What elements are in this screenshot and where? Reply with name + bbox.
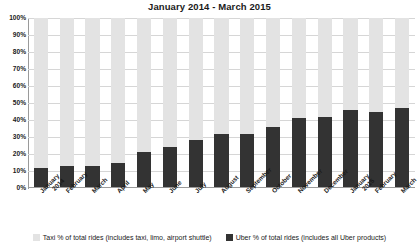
bar-group	[240, 18, 254, 188]
y-axis-tick-label: 0%	[0, 185, 26, 192]
legend-item[interactable]: Uber % of total rides (includes all Uber…	[226, 234, 387, 241]
chart-title: January 2014 - March 2015	[0, 1, 419, 12]
bar-group	[189, 18, 203, 188]
bar-group	[85, 18, 99, 188]
bar-group	[395, 18, 409, 188]
legend-swatch-uber-icon	[226, 234, 233, 241]
bar-segment-taxi	[34, 18, 48, 188]
bar-group	[111, 18, 125, 188]
y-axis-tick-label: 10%	[0, 168, 26, 175]
bar-segment-taxi	[85, 18, 99, 188]
chart-container: January 2014 - March 2015 100%90%80%70%6…	[0, 0, 419, 252]
y-axis-tick-label: 50%	[0, 100, 26, 107]
chart-legend: Taxi % of total rides (includes taxi, li…	[0, 234, 419, 241]
bars-layer	[28, 18, 415, 188]
bar-group	[137, 18, 151, 188]
legend-label: Taxi % of total rides (includes taxi, li…	[43, 234, 212, 241]
y-axis-tick-label: 80%	[0, 49, 26, 56]
bar-segment-taxi	[60, 18, 74, 188]
bar-group	[163, 18, 177, 188]
bar-group	[266, 18, 280, 188]
plot-area	[28, 18, 415, 188]
bar-segment-uber	[318, 117, 332, 188]
legend-item[interactable]: Taxi % of total rides (includes taxi, li…	[33, 234, 212, 241]
y-axis-tick-label: 70%	[0, 66, 26, 73]
y-axis-tick-label: 100%	[0, 15, 26, 22]
bar-group	[318, 18, 332, 188]
bar-group	[369, 18, 383, 188]
y-axis-tick-label: 40%	[0, 117, 26, 124]
bar-group	[60, 18, 74, 188]
bar-group	[34, 18, 48, 188]
bar-group	[214, 18, 228, 188]
bar-segment-uber	[214, 134, 228, 188]
y-axis-tick-label: 90%	[0, 32, 26, 39]
bar-segment-uber	[292, 118, 306, 188]
y-axis-tick-labels: 100%90%80%70%60%50%40%30%20%10%0%	[0, 0, 26, 252]
bar-group	[292, 18, 306, 188]
y-axis-tick-label: 20%	[0, 151, 26, 158]
legend-swatch-taxi-icon	[33, 234, 40, 241]
y-axis-tick-label: 30%	[0, 134, 26, 141]
y-axis-tick-label: 60%	[0, 83, 26, 90]
bar-segment-uber	[266, 127, 280, 188]
bar-group	[343, 18, 357, 188]
legend-label: Uber % of total rides (includes all Uber…	[236, 234, 387, 241]
